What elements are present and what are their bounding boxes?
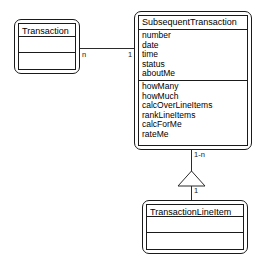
multiplicity-label-target-1: 1 bbox=[128, 50, 132, 59]
class-box-transaction[interactable]: Transaction bbox=[14, 19, 80, 74]
class-name-transaction-line-item: TransactionLineItem bbox=[147, 205, 243, 217]
attributes-compartment-subsequent-transaction: number date time status aboutMe bbox=[139, 30, 247, 81]
association-line-transaction-subsequent bbox=[80, 48, 134, 49]
attribute-date: date bbox=[142, 41, 244, 51]
class-box-inner: Transaction bbox=[18, 23, 76, 70]
operations-compartment-transaction-line-item bbox=[147, 233, 243, 249]
class-box-subsequent-transaction[interactable]: SubsequentTransaction number date time s… bbox=[134, 11, 252, 150]
operation-ranklineitems: rankLineItems bbox=[142, 111, 244, 121]
operations-compartment-transaction bbox=[19, 53, 75, 69]
operation-rateme: rateMe bbox=[142, 130, 244, 140]
class-box-inner: TransactionLineItem bbox=[146, 204, 244, 250]
generalization-triangle-icon bbox=[177, 170, 206, 187]
class-name-subsequent-transaction: SubsequentTransaction bbox=[139, 16, 247, 30]
attribute-aboutme: aboutMe bbox=[142, 69, 244, 79]
class-box-inner: SubsequentTransaction number date time s… bbox=[138, 15, 248, 146]
generalization-line-lower bbox=[191, 186, 192, 200]
class-box-transaction-line-item[interactable]: TransactionLineItem bbox=[142, 200, 248, 254]
attribute-time: time bbox=[142, 50, 244, 60]
operation-calcforme: calcForMe bbox=[142, 120, 244, 130]
multiplicity-label-generalization-1n: 1-n bbox=[194, 150, 205, 159]
operation-howmuch: howMuch bbox=[142, 92, 244, 102]
uml-class-diagram-canvas: Transaction SubsequentTransaction number… bbox=[0, 0, 258, 263]
operation-howmany: howMany bbox=[142, 82, 244, 92]
attribute-status: status bbox=[142, 60, 244, 70]
class-name-transaction: Transaction bbox=[19, 24, 75, 37]
operations-compartment-subsequent-transaction: howMany howMuch calcOverLineItems rankLi… bbox=[139, 81, 247, 145]
multiplicity-label-source-n: n bbox=[82, 50, 86, 59]
attributes-compartment-transaction-line-item bbox=[147, 217, 243, 233]
operation-calcoverlineitems: calcOverLineItems bbox=[142, 101, 244, 111]
multiplicity-label-generalization-1: 1 bbox=[194, 186, 198, 195]
attribute-number: number bbox=[142, 31, 244, 41]
attributes-compartment-transaction bbox=[19, 37, 75, 53]
